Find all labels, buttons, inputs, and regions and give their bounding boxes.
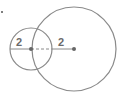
small-radius-label: 2 [16,36,22,48]
large-radius-label: 2 [58,36,64,48]
small-circle-center [29,47,33,51]
two-circles-diagram: 2 2 [0,0,122,99]
stray-dot [1,11,3,13]
large-circle-center [72,47,76,51]
